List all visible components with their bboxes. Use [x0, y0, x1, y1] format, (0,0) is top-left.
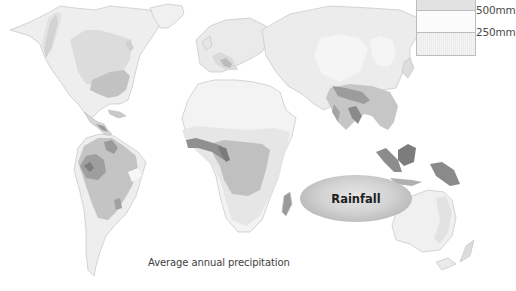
map-caption: Average annual precipitation	[148, 257, 290, 268]
legend-swatch-250-500mm	[416, 10, 476, 33]
south-america	[74, 134, 146, 276]
legend-swatch-under-250mm	[416, 32, 476, 56]
north-america	[10, 4, 184, 136]
legend-label-250mm: 250mm	[476, 26, 516, 38]
legend-label-500mm: 500mm	[476, 4, 516, 16]
map-title: Rainfall	[331, 192, 380, 206]
map-title-oval: Rainfall	[300, 175, 412, 222]
rainfall-legend: 500mm 250mm	[416, 0, 502, 58]
